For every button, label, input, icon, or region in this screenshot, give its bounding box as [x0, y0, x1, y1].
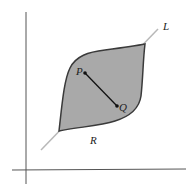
- label-p: P: [75, 65, 83, 77]
- label-l: L: [162, 20, 169, 32]
- region-r: [59, 44, 145, 131]
- label-r: R: [89, 134, 97, 146]
- point-p: [83, 71, 87, 75]
- diagram-canvas: L P Q R: [0, 0, 196, 192]
- x-axis: [12, 169, 186, 170]
- label-q: Q: [119, 101, 127, 113]
